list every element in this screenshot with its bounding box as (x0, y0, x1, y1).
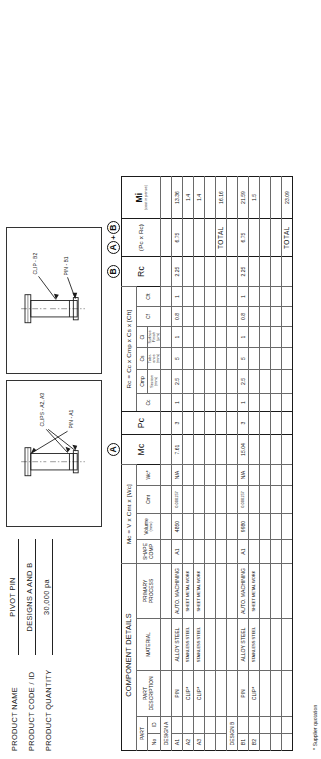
total-mi-design-b: 23.09 (281, 177, 292, 219)
product-name-value[interactable]: PIVOT PIN (8, 539, 19, 655)
cell-part-id (237, 717, 248, 734)
cell-wc: N/A (171, 465, 182, 486)
cell-shape-comp (259, 540, 270, 564)
cell-cc: 1 (171, 394, 182, 412)
rotated-sheet: PRODUCT NAME PIVOT PIN PRODUCT CODE / ID… (0, 0, 321, 759)
cell-pc (270, 412, 281, 435)
cell-rc (259, 257, 270, 287)
cell-description: PIN (171, 671, 182, 717)
cell-material: STAINLESS STEEL (193, 619, 204, 671)
cell-volume (248, 514, 259, 540)
cell-pc: 3 (171, 412, 182, 435)
product-quantity-value[interactable]: 30,000 pa (42, 539, 53, 655)
cell-part-no: B2 (248, 734, 259, 751)
cell-pc (193, 412, 204, 435)
col-cs-sub-l3: (mm) (156, 348, 160, 369)
cell-part-id (259, 717, 270, 734)
col-ci: Ci (136, 327, 147, 348)
section-header-row: DESIGN B (226, 177, 237, 751)
col-shape-comp: SHAPE COMP (136, 540, 160, 564)
table-row[interactable]: A3 CLIP* STAINLESS STEEL SHEET METAL WOR… (193, 177, 204, 751)
cell-pc: 3 (237, 412, 248, 435)
circle-tag-a2: A (107, 241, 120, 254)
table-row[interactable] (259, 177, 270, 751)
col-cs: Cs (136, 348, 147, 370)
cell-pe-rc: 6.75 (237, 219, 248, 257)
cell-shape-comp (193, 540, 204, 564)
cell-cf (193, 307, 204, 327)
cell-cmp: 2.5 (237, 370, 248, 394)
product-code-value[interactable]: DESIGNS A AND B (25, 539, 36, 655)
cell-cmp (259, 370, 270, 394)
cell-volume: 4850 (171, 514, 182, 540)
cell-part-id (204, 717, 215, 734)
table-row[interactable] (270, 177, 281, 751)
cell-cmt (204, 486, 215, 514)
table-row[interactable]: A1 PIN ALLOY STEEL AUTO. MACHINING A1 48… (171, 177, 182, 751)
product-info-row: PRODUCT CODE / ID DESIGNS A AND B (25, 539, 36, 751)
cell-cf (248, 307, 259, 327)
cell-mc (193, 435, 204, 465)
cell-cmt (248, 486, 259, 514)
circle-tag-a: A (107, 443, 120, 456)
cell-wc (248, 465, 259, 486)
cell-mi: 1.4 (193, 177, 204, 219)
product-name-label: PRODUCT NAME (10, 655, 19, 751)
col-part-id: ID (147, 717, 160, 734)
cell-wc (193, 465, 204, 486)
cell-cf (182, 307, 193, 327)
col-cc: Cc (136, 394, 160, 412)
cell-volume (193, 514, 204, 540)
cell-cft: 1 (171, 287, 182, 307)
cell-ci: 1 (237, 327, 248, 348)
cell-cmp (248, 370, 259, 394)
cell-cmp (182, 370, 193, 394)
table-row[interactable]: A2 CLIP* STAINLESS STEEL SHEET METAL WOR… (182, 177, 193, 751)
table-row[interactable]: B2 CLIP* STAINLESS STEEL SHEET METAL WOR… (248, 177, 259, 751)
col-wc-star: * (145, 470, 151, 472)
cell-volume: 9980 (237, 514, 248, 540)
cell-wc (182, 465, 193, 486)
cost-estimation-sheet: PRODUCT NAME PIVOT PIN PRODUCT CODE / ID… (0, 0, 321, 759)
cell-description (204, 671, 215, 717)
cell-process: SHEET METAL WORK (248, 564, 259, 619)
cell-part-no (259, 734, 270, 751)
group-mi-label: Mi (134, 177, 144, 218)
cell-rc: 2.25 (237, 257, 248, 287)
cell-mi: 21.59 (237, 177, 248, 219)
cell-volume (259, 514, 270, 540)
cell-process: AUTO. MACHINING (237, 564, 248, 619)
tag-b-cell: B (106, 257, 121, 287)
col-part-description-l2: DESCRIPTION (148, 671, 154, 716)
design-b-drawing-svg: CLIP - B2 PIN - B1 (7, 228, 101, 373)
col-wc: Wc* (136, 465, 160, 486)
cell-cft (193, 287, 204, 307)
cell-cc (193, 394, 204, 412)
cell-cft (270, 287, 281, 307)
cell-pc (204, 412, 215, 435)
table-row[interactable] (204, 177, 215, 751)
total-row: TOTAL 16.16 (215, 177, 226, 751)
cell-cft (248, 287, 259, 307)
cell-cmt (270, 486, 281, 514)
cell-process (270, 564, 281, 619)
svg-text:PIN - B1: PIN - B1 (64, 256, 70, 275)
total-mi-design-a: 16.16 (215, 177, 226, 219)
footnote: * Supplier quotation (312, 705, 318, 750)
cell-pe-rc (270, 219, 281, 257)
cell-cs (193, 348, 204, 370)
cell-shape-comp (248, 540, 259, 564)
design-a-drawing: CLIPS - A2, A3 PIN - A1 (6, 380, 102, 527)
col-ci-sub: Surface Finish (µm) (147, 327, 160, 348)
product-info-row: PRODUCT QUANTITY 30,000 pa (42, 539, 53, 751)
cell-cc (182, 394, 193, 412)
cell-mc (270, 435, 281, 465)
table-row[interactable]: B1 PIN ALLOY STEEL AUTO. MACHINING A1 99… (237, 177, 248, 751)
cell-shape-comp: A1 (171, 540, 182, 564)
cost-table: A B A + B COMPONENT DETAILS Mc = V x Cmt… (106, 176, 293, 751)
cell-cft (259, 287, 270, 307)
cell-rc (270, 257, 281, 287)
cell-mc: 15.04 (237, 435, 248, 465)
col-cmp-sub-l2: (mm) (154, 370, 158, 393)
cell-mi: 1.4 (182, 177, 193, 219)
